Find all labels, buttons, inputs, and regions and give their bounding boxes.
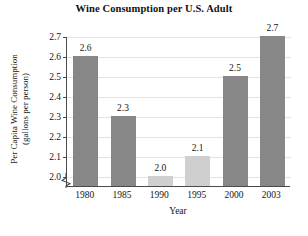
y-tick-label: 2.1	[49, 152, 61, 162]
y-tick-label: 2.2	[49, 132, 61, 142]
chart-figure: Wine Consumption per U.S. Adult Per Capi…	[0, 0, 308, 236]
gridline	[67, 97, 291, 98]
axis-break-icon	[59, 172, 73, 188]
gridline	[67, 137, 291, 138]
y-tick-label: 2.5	[49, 72, 61, 82]
x-axis-title: Year	[66, 206, 290, 216]
bar	[148, 176, 173, 186]
x-tick-label: 2003	[262, 190, 281, 200]
x-tick-label: 1995	[187, 190, 206, 200]
bar	[260, 36, 285, 186]
gridline	[67, 157, 291, 158]
gridline	[67, 117, 291, 118]
y-tick-mark	[63, 57, 67, 58]
y-axis-title-line1: Per Capita Wine Consumption	[9, 54, 20, 164]
bar-value-label: 2.7	[266, 23, 278, 33]
bar-value-label: 2.1	[192, 143, 204, 153]
y-tick-mark	[63, 77, 67, 78]
bar-value-label: 2.3	[117, 103, 129, 113]
bar	[73, 56, 98, 186]
x-tick-label: 1980	[75, 190, 94, 200]
chart-title: Wine Consumption per U.S. Adult	[0, 3, 308, 14]
y-tick-mark	[63, 157, 67, 158]
plot-area: 2.02.12.22.32.42.52.62.7 2.62.32.02.12.5…	[66, 37, 290, 187]
y-tick-label: 2.4	[49, 92, 61, 102]
y-axis-title: Per Capita Wine Consumption (gallons per…	[6, 30, 34, 188]
y-tick-label: 2.6	[49, 52, 61, 62]
y-tick-mark	[63, 137, 67, 138]
y-tick-label: 2.7	[49, 32, 61, 42]
bar-value-label: 2.6	[80, 43, 92, 53]
bar-value-label: 2.0	[154, 163, 166, 173]
bar	[185, 156, 210, 186]
bar-value-label: 2.5	[229, 63, 241, 73]
y-tick-mark	[63, 37, 67, 38]
bar	[223, 76, 248, 186]
gridline	[67, 177, 291, 178]
x-tick-label: 2000	[225, 190, 244, 200]
gridline	[67, 77, 291, 78]
gridline	[67, 57, 291, 58]
y-tick-label: 2.3	[49, 112, 61, 122]
x-tick-label: 1985	[113, 190, 132, 200]
gridline	[67, 37, 291, 38]
y-tick-mark	[63, 97, 67, 98]
y-tick-mark	[63, 117, 67, 118]
y-axis-title-line2: (gallons per person)	[20, 54, 31, 164]
bar	[111, 116, 136, 186]
x-tick-label: 1990	[150, 190, 169, 200]
